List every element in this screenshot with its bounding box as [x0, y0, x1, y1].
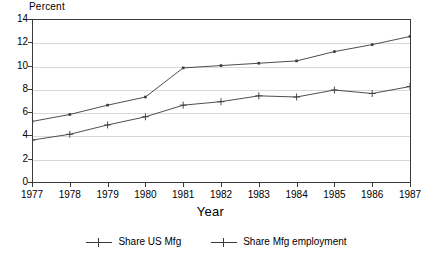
series-line: [32, 36, 410, 121]
x-tick-mark: [334, 183, 335, 187]
x-tick-label: 1984: [285, 189, 307, 200]
y-tick-label: 8: [0, 84, 28, 94]
legend-label: Share US Mfg: [118, 236, 181, 247]
y-tick-label: 0: [0, 177, 28, 187]
x-tick-label: 1978: [59, 189, 81, 200]
data-point-marker: [182, 67, 185, 70]
data-point-marker: [220, 64, 223, 67]
data-point-marker: [258, 62, 261, 65]
legend-entry-1[interactable]: Share US Mfg: [86, 236, 181, 247]
x-tick-mark: [70, 183, 71, 187]
data-point-marker: [106, 104, 109, 107]
x-tick-mark: [221, 183, 222, 187]
data-point-marker: [333, 50, 336, 53]
series-line: [32, 87, 410, 141]
x-tick-mark: [259, 183, 260, 187]
x-tick-mark: [297, 183, 298, 187]
x-tick-mark: [108, 183, 109, 187]
x-tick-label: 1977: [21, 189, 43, 200]
x-tick-label: 1980: [134, 189, 156, 200]
data-point-marker: [295, 60, 298, 63]
data-point-marker: [32, 120, 33, 123]
data-series-layer: [32, 19, 411, 183]
x-axis-title: Year: [0, 204, 433, 219]
x-tick-label: 1982: [210, 189, 232, 200]
y-tick-label: 6: [0, 107, 28, 117]
x-tick-label: 1987: [399, 189, 421, 200]
x-tick-label: 1983: [248, 189, 270, 200]
x-tick-mark: [372, 183, 373, 187]
series-2: [32, 83, 411, 144]
y-tick-label: 4: [0, 130, 28, 140]
data-point-marker: [371, 43, 374, 46]
y-tick-label: 10: [0, 61, 28, 71]
series-1: [32, 35, 411, 123]
data-point-marker: [409, 35, 411, 38]
y-tick-label: 12: [0, 37, 28, 47]
y-tick-label: 14: [0, 14, 28, 24]
chart-legend: Share US MfgShare Mfg employment: [0, 236, 433, 247]
legend-plus-marker-icon: [211, 237, 237, 247]
x-tick-mark: [145, 183, 146, 187]
x-tick-label: 1981: [172, 189, 194, 200]
chart-figure: Percent 02468101214 19771978197919801981…: [0, 0, 433, 265]
legend-entry-2[interactable]: Share Mfg employment: [211, 236, 346, 247]
x-tick-label: 1985: [323, 189, 345, 200]
x-axis-title-text: Year: [197, 204, 224, 219]
data-point-marker: [69, 113, 72, 116]
legend-line-marker-icon: [86, 237, 112, 247]
y-tick-label: 2: [0, 154, 28, 164]
x-tick-label: 1979: [96, 189, 118, 200]
legend-label: Share Mfg employment: [243, 236, 346, 247]
x-tick-mark: [32, 183, 33, 187]
x-tick-label: 1986: [361, 189, 383, 200]
x-tick-mark: [183, 183, 184, 187]
data-point-marker: [144, 96, 147, 99]
x-tick-mark: [410, 183, 411, 187]
